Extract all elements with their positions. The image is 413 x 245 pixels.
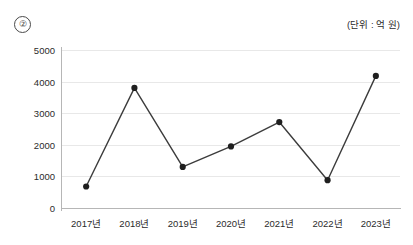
data-point <box>131 85 137 91</box>
x-axis-tick-label: 2021년 <box>264 216 294 230</box>
x-axis-tick-label: 2020년 <box>216 216 246 230</box>
data-point <box>276 119 282 125</box>
data-point <box>180 164 186 170</box>
x-axis-tick-label: 2018년 <box>119 216 149 230</box>
data-point <box>83 183 89 189</box>
x-axis-tick-label: 2022년 <box>312 216 342 230</box>
data-point <box>324 177 330 183</box>
x-axis-tick-label: 2019년 <box>168 216 198 230</box>
data-point <box>228 143 234 149</box>
series-line <box>86 76 376 187</box>
line-series-layer <box>0 0 413 245</box>
chart-figure: ② (단위 : 억 원) 010002000300040005000 2017년… <box>0 0 413 245</box>
x-axis-tick-label: 2023년 <box>361 216 391 230</box>
x-axis-tick-label: 2017년 <box>71 216 101 230</box>
data-point <box>373 73 379 79</box>
series-markers <box>83 73 379 190</box>
